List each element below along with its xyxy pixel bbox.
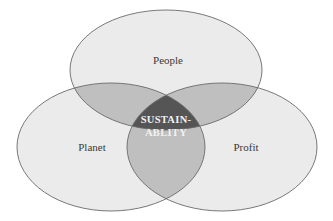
sustainability-label-line1: SUSTAIN- — [141, 114, 192, 125]
people-label: People — [153, 54, 183, 66]
sustainability-label-line2: ABLITY — [145, 127, 187, 138]
venn-diagram: People Planet Profit SUSTAIN- ABLITY — [0, 0, 333, 221]
profit-label: Profit — [233, 141, 258, 153]
planet-label: Planet — [78, 141, 106, 153]
